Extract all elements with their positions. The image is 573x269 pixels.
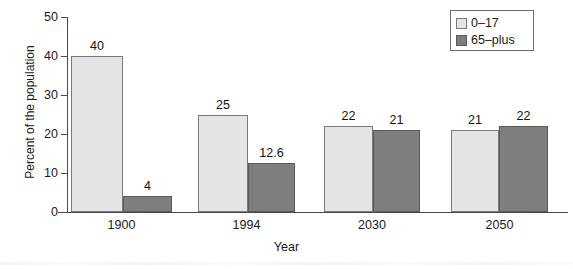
bar-1994-0-17: [198, 115, 248, 213]
bar-1900-65-plus: [123, 196, 172, 212]
y-axis-title: Percent of the population: [24, 17, 36, 207]
x-axis-title: Year: [0, 241, 573, 254]
y-tick-0: [61, 212, 68, 213]
bar-value-label: 21: [373, 114, 420, 126]
legend: 0–17 65–plus: [450, 10, 534, 51]
legend-label-65-plus: 65–plus: [471, 34, 515, 47]
bar-2050-0-17: [451, 130, 499, 212]
bar-2050-65-plus: [499, 126, 548, 212]
bar-value-label: 4: [123, 180, 172, 192]
bar-1994-65-plus: [248, 163, 295, 212]
x-axis-line: [58, 212, 568, 213]
bar-2030-65-plus: [373, 130, 420, 212]
bar-2030-0-17: [324, 126, 373, 212]
bar-value-label: 25: [198, 99, 248, 111]
bar-value-label: 40: [71, 40, 123, 52]
bar-value-label: 21: [451, 114, 499, 126]
x-tick-label-2030: 2030: [324, 219, 420, 232]
scan-artifact: [0, 262, 573, 265]
legend-item-65-plus: 65–plus: [456, 32, 528, 48]
x-tick-label-1900: 1900: [71, 219, 172, 232]
y-tick-10: [61, 173, 68, 174]
y-tick-20: [61, 134, 68, 135]
y-tick-label-text: 0: [20, 206, 58, 218]
bar-value-label: 22: [324, 110, 373, 122]
x-tick-label-1994: 1994: [198, 219, 295, 232]
dark-gray-swatch-icon: [456, 35, 467, 46]
y-tick-label-0: 0: [8, 206, 58, 218]
x-tick-label-2050: 2050: [451, 219, 548, 232]
y-tick-50: [61, 17, 68, 18]
y-tick-30: [61, 95, 68, 96]
y-tick-40: [61, 56, 68, 57]
bar-value-label: 12.6: [248, 147, 295, 159]
bar-chart: 01020304050 Percent of the population 40…: [0, 0, 573, 269]
bar-1900-0-17: [71, 56, 123, 212]
bar-value-label: 22: [499, 110, 548, 122]
legend-item-0-17: 0–17: [456, 15, 528, 31]
light-gray-swatch-icon: [456, 18, 467, 29]
legend-label-0-17: 0–17: [471, 17, 499, 30]
